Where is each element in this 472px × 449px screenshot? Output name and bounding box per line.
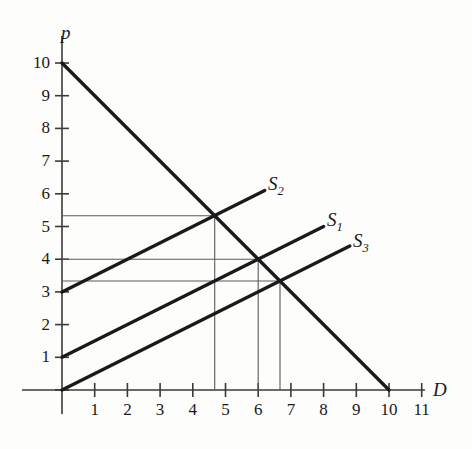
curve-label-s2: S2 <box>268 173 284 199</box>
x-tick-label-1: 1 <box>90 400 99 420</box>
curve-label-s1-subscript: 1 <box>337 220 343 234</box>
y-tick-label-2: 2 <box>22 315 50 335</box>
y-tick-label-7: 7 <box>22 151 50 171</box>
y-tick-label-1: 1 <box>22 347 50 367</box>
x-tick-label-10: 10 <box>381 400 398 420</box>
x-tick-label-7: 7 <box>287 400 296 420</box>
curve-label-s3: S3 <box>353 230 369 256</box>
supply-curve-s3 <box>62 246 350 390</box>
x-axis-title: D <box>433 379 447 401</box>
curve-label-s3-subscript: 3 <box>363 241 369 255</box>
y-tick-label-6: 6 <box>22 184 50 204</box>
supply-curve-s1 <box>62 227 324 358</box>
x-tick-label-4: 4 <box>189 400 198 420</box>
curve-label-s2-subscript: 2 <box>278 184 284 198</box>
y-tick-label-9: 9 <box>22 86 50 106</box>
x-tick-label-9: 9 <box>352 400 361 420</box>
x-tick-label-11: 11 <box>414 400 430 420</box>
x-tick-label-3: 3 <box>156 400 165 420</box>
curve-label-s1-text: S <box>327 209 337 230</box>
x-tick-label-5: 5 <box>221 400 230 420</box>
y-tick-label-4: 4 <box>22 249 50 269</box>
y-axis-title: p <box>61 22 71 44</box>
chart-plot-area <box>0 0 472 449</box>
y-tick-label-5: 5 <box>22 217 50 237</box>
x-tick-label-2: 2 <box>123 400 132 420</box>
x-tick-label-8: 8 <box>319 400 328 420</box>
y-tick-label-10: 10 <box>22 53 50 73</box>
y-tick-label-8: 8 <box>22 118 50 138</box>
curve-label-s2-text: S <box>268 173 278 194</box>
curve-label-s1: S1 <box>327 209 343 235</box>
y-tick-label-3: 3 <box>22 282 50 302</box>
supply-curve-s2 <box>62 191 265 292</box>
curve-label-s3-text: S <box>353 230 363 251</box>
supply-demand-chart: p D S2 S1 S3 10 9 8 7 6 5 4 3 2 1 1 2 3 … <box>0 0 472 449</box>
x-tick-label-6: 6 <box>254 400 263 420</box>
